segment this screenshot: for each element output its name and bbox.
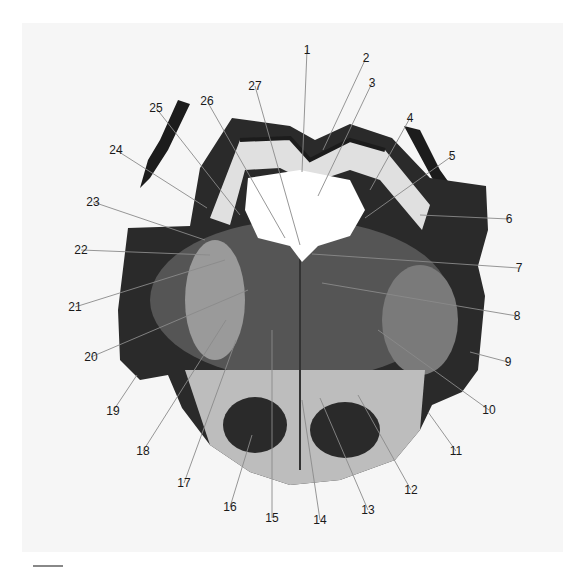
leader-line-1 [302, 50, 307, 172]
structure-label-4: 4 [407, 112, 414, 124]
structure-label-9: 9 [505, 356, 512, 368]
structure-label-15: 15 [265, 512, 278, 524]
leader-line-2 [323, 58, 366, 150]
leader-line-17 [184, 340, 236, 483]
structure-label-20: 20 [84, 351, 97, 363]
structure-label-14: 14 [313, 514, 326, 526]
leader-line-8 [322, 283, 517, 316]
leader-line-13 [320, 398, 368, 510]
scale-bar [33, 565, 63, 567]
structure-label-27: 27 [248, 80, 261, 92]
leader-line-22 [81, 250, 210, 255]
structure-label-25: 25 [149, 102, 162, 114]
structure-label-3: 3 [369, 77, 376, 89]
leader-line-10 [378, 330, 489, 410]
leader-line-21 [75, 260, 225, 307]
leader-line-5 [365, 156, 452, 218]
leader-line-23 [93, 202, 205, 240]
leader-line-25 [156, 108, 240, 215]
structure-label-21: 21 [68, 301, 81, 313]
structure-label-1: 1 [304, 44, 311, 56]
structure-label-26: 26 [200, 95, 213, 107]
leader-line-26 [207, 101, 285, 238]
structure-label-8: 8 [514, 310, 521, 322]
leader-line-12 [358, 395, 411, 490]
structure-label-16: 16 [223, 501, 236, 513]
leader-line-16 [230, 435, 252, 507]
structure-label-6: 6 [506, 213, 513, 225]
leader-line-9 [470, 352, 508, 362]
leader-line-6 [420, 215, 509, 219]
structure-label-2: 2 [363, 52, 370, 64]
structure-label-22: 22 [74, 244, 87, 256]
structure-label-24: 24 [109, 144, 122, 156]
structure-label-23: 23 [86, 196, 99, 208]
structure-label-17: 17 [177, 477, 190, 489]
structure-label-13: 13 [361, 504, 374, 516]
structure-label-19: 19 [106, 405, 119, 417]
leader-line-4 [370, 118, 410, 190]
leader-line-27 [255, 86, 300, 245]
leader-line-14 [302, 400, 320, 520]
leader-lines [0, 0, 583, 573]
leader-line-18 [143, 320, 226, 451]
leader-line-20 [91, 290, 248, 357]
structure-label-10: 10 [482, 404, 495, 416]
leader-line-7 [312, 254, 519, 268]
structure-label-18: 18 [136, 445, 149, 457]
leader-line-24 [116, 150, 207, 208]
leader-line-3 [318, 83, 372, 196]
structure-label-5: 5 [449, 150, 456, 162]
structure-label-12: 12 [404, 484, 417, 496]
structure-label-7: 7 [516, 262, 523, 274]
structure-label-11: 11 [450, 445, 462, 457]
